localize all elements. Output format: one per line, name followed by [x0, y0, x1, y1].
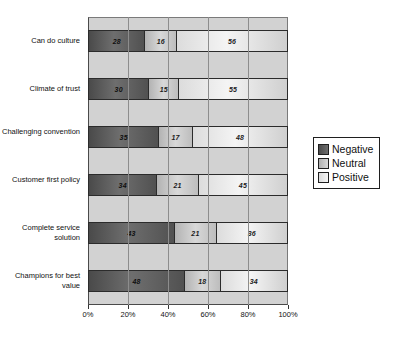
x-axis: 0%20%40%60%80%100% [88, 305, 288, 325]
bar-segment-negative: 30 [89, 79, 148, 99]
bar-value-label: 34 [250, 278, 258, 285]
bar-value-label: 28 [113, 38, 121, 45]
bar-value-label: 48 [132, 278, 140, 285]
bar-segment-negative: 43 [89, 223, 174, 243]
legend-swatch-positive [318, 172, 329, 183]
x-tick [88, 305, 89, 309]
bar-segment-neutral: 18 [184, 271, 220, 291]
x-tick [128, 305, 129, 309]
bar-segment-positive: 34 [220, 271, 287, 291]
category-label: Can do culture [0, 36, 80, 46]
x-tick [248, 305, 249, 309]
category-label: Customer first policy [0, 175, 80, 185]
bar-segment-positive: 55 [178, 79, 287, 99]
bar-segment-neutral: 17 [158, 127, 192, 147]
bar-segment-negative: 28 [89, 31, 144, 51]
bar-value-label: 21 [191, 230, 199, 237]
bar-row: 342145 [88, 174, 288, 196]
bar-value-label: 34 [119, 182, 127, 189]
bar-value-label: 35 [120, 134, 128, 141]
bar-value-label: 17 [172, 134, 180, 141]
x-tick-label: 20% [120, 310, 135, 319]
bar-segment-neutral: 21 [174, 223, 216, 243]
legend-label-negative: Negative [332, 144, 373, 155]
bar-segment-positive: 48 [192, 127, 287, 147]
chart-legend: Negative Neutral Positive [313, 137, 380, 189]
x-tick-label: 60% [200, 310, 215, 319]
category-label: Complete service solution [0, 223, 80, 242]
x-tick-label: 0% [83, 310, 94, 319]
gridline-60 [208, 17, 209, 305]
bar-value-label: 30 [115, 86, 123, 93]
legend-swatch-neutral [318, 158, 329, 169]
bar-value-label: 56 [228, 38, 236, 45]
gridline-40 [168, 17, 169, 305]
bar-row: 432136 [88, 222, 288, 244]
bar-segment-negative: 34 [89, 175, 156, 195]
legend-item-neutral: Neutral [318, 156, 373, 170]
x-tick-label: 100% [278, 310, 297, 319]
bar-value-label: 18 [198, 278, 206, 285]
legend-item-negative: Negative [318, 142, 373, 156]
gridline-80 [248, 17, 249, 305]
bar-segment-positive: 36 [216, 223, 287, 243]
bar-rows: 281656301555351748342145432136481834 [88, 17, 288, 305]
bar-row: 301555 [88, 78, 288, 100]
legend-label-positive: Positive [332, 172, 369, 183]
bar-value-label: 48 [236, 134, 244, 141]
bar-value-label: 15 [160, 86, 168, 93]
bar-row: 281656 [88, 30, 288, 52]
category-axis-labels: Can do cultureClimate of trustChallengin… [0, 17, 84, 305]
category-label: Challenging convention [0, 127, 80, 137]
bar-value-label: 45 [239, 182, 247, 189]
x-tick-label: 80% [240, 310, 255, 319]
x-tick-label: 40% [160, 310, 175, 319]
legend-swatch-negative [318, 144, 329, 155]
legend-item-positive: Positive [318, 170, 373, 184]
bar-value-label: 21 [174, 182, 182, 189]
plot-area: 281656301555351748342145432136481834 [88, 17, 288, 305]
bar-segment-neutral: 21 [156, 175, 198, 195]
category-label: Climate of trust [0, 84, 80, 94]
category-label: Champions for best value [0, 271, 80, 290]
bar-value-label: 16 [157, 38, 165, 45]
bar-row: 351748 [88, 126, 288, 148]
gridline-20 [128, 17, 129, 305]
bar-segment-neutral: 15 [148, 79, 178, 99]
bar-segment-negative: 48 [89, 271, 184, 291]
bar-segment-neutral: 16 [144, 31, 176, 51]
stacked-bar-chart: Can do cultureClimate of trustChallengin… [0, 0, 404, 347]
bar-segment-positive: 56 [176, 31, 287, 51]
x-tick [168, 305, 169, 309]
bar-segment-positive: 45 [198, 175, 287, 195]
x-tick [288, 305, 289, 309]
bar-segment-negative: 35 [89, 127, 158, 147]
bar-row: 481834 [88, 270, 288, 292]
bar-value-label: 55 [229, 86, 237, 93]
legend-label-neutral: Neutral [332, 158, 366, 169]
x-tick [208, 305, 209, 309]
